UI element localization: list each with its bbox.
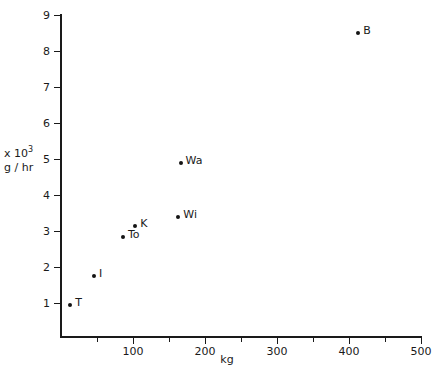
data-point-marker-I xyxy=(92,274,96,278)
y-tick-label-8: 8 xyxy=(36,46,50,57)
y-axis-title-line1: x 103 xyxy=(4,147,33,161)
x-tick-label-100: 100 xyxy=(123,346,144,357)
y-axis-title: x 103 g / hr xyxy=(4,147,33,175)
y-axis-title-exponent: 3 xyxy=(28,145,33,154)
y-tick-label-4: 4 xyxy=(36,190,50,201)
x-tick-label-400: 400 xyxy=(339,346,360,357)
x-tick-minor-50 xyxy=(97,338,98,342)
x-tick-minor-350 xyxy=(313,338,314,342)
data-point-marker-Wa xyxy=(179,161,183,165)
y-axis-title-line2: g / hr xyxy=(4,161,33,175)
x-tick-minor-450 xyxy=(385,338,386,342)
data-point-marker-K xyxy=(133,224,137,228)
data-point-marker-T xyxy=(68,303,72,307)
x-tick-minor-250 xyxy=(241,338,242,342)
y-tick-label-3: 3 xyxy=(36,226,50,237)
y-tick-label-1: 1 xyxy=(36,298,50,309)
x-axis-title: kg xyxy=(220,354,233,365)
y-axis-title-mantissa: x 10 xyxy=(4,147,28,160)
x-tick-300 xyxy=(277,338,278,344)
y-tick-9 xyxy=(54,15,60,16)
data-point-marker-Wi xyxy=(176,215,180,219)
data-point-label-I: I xyxy=(99,268,102,279)
data-point-label-B: B xyxy=(363,25,371,36)
y-tick-8 xyxy=(54,51,60,52)
x-tick-400 xyxy=(349,338,350,344)
data-point-label-Wi: Wi xyxy=(183,209,197,220)
y-tick-label-9: 9 xyxy=(36,10,50,21)
data-point-label-K: K xyxy=(140,218,147,229)
y-tick-label-7: 7 xyxy=(36,82,50,93)
y-tick-label-5: 5 xyxy=(36,154,50,165)
data-point-marker-B xyxy=(356,31,360,35)
y-tick-4 xyxy=(54,195,60,196)
y-axis-line xyxy=(60,14,62,338)
x-tick-100 xyxy=(133,338,134,344)
x-tick-500 xyxy=(421,338,422,344)
x-tick-label-500: 500 xyxy=(411,346,432,357)
y-tick-3 xyxy=(54,231,60,232)
y-tick-7 xyxy=(54,87,60,88)
y-tick-label-2: 2 xyxy=(36,262,50,273)
x-tick-minor-150 xyxy=(169,338,170,342)
x-tick-label-200: 200 xyxy=(195,346,216,357)
data-point-label-To: To xyxy=(128,229,140,240)
y-tick-5 xyxy=(54,159,60,160)
x-tick-label-300: 300 xyxy=(267,346,288,357)
data-point-marker-To xyxy=(121,235,125,239)
data-point-label-Wa: Wa xyxy=(186,155,203,166)
data-point-label-T: T xyxy=(75,297,82,308)
x-tick-200 xyxy=(205,338,206,344)
y-tick-1 xyxy=(54,303,60,304)
y-tick-6 xyxy=(54,123,60,124)
y-tick-label-6: 6 xyxy=(36,118,50,129)
y-tick-2 xyxy=(54,267,60,268)
